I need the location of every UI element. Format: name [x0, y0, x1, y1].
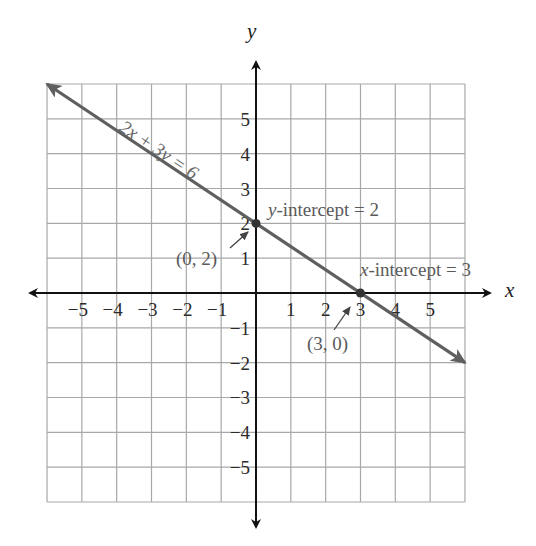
y-tick-label: −1 — [230, 318, 250, 339]
y-intercept-var: y — [266, 199, 277, 220]
y-tick-label: 1 — [241, 248, 251, 269]
x-tick-label: −2 — [172, 299, 192, 320]
arrow-icon — [334, 307, 350, 330]
point-0-2-label: (0, 2) — [176, 248, 217, 270]
x-intercept-text: -intercept = 3 — [368, 259, 471, 280]
y-tick-label: 4 — [241, 144, 251, 165]
y-tick-label: −4 — [230, 422, 251, 443]
y-tick-label: 3 — [241, 179, 251, 200]
x-tick-label: 3 — [356, 299, 366, 320]
x-intercept-point — [356, 289, 365, 298]
x-axis-label: x — [504, 278, 515, 302]
y-tick-label: −3 — [230, 387, 250, 408]
y-intercept-point — [252, 219, 261, 228]
x-intercept-label: x-intercept = 3 — [359, 259, 471, 280]
x-tick-label: 1 — [286, 299, 296, 320]
point-3-0-label: (3, 0) — [307, 333, 348, 355]
x-tick-label: 2 — [321, 299, 331, 320]
y-tick-label: −5 — [230, 457, 250, 478]
y-intercept-text: -intercept = 2 — [276, 199, 379, 220]
line-equation-label: 2x + 3y = 6 — [116, 116, 203, 184]
x-tick-label: −5 — [68, 299, 88, 320]
y-intercept-label: y-intercept = 2 — [266, 199, 379, 220]
x-tick-label: −4 — [103, 299, 124, 320]
x-tick-labels: −5−4−3−2−112345 — [68, 299, 435, 320]
y-axis-label: y — [245, 19, 257, 43]
x-tick-label: 5 — [425, 299, 435, 320]
arrow-icon — [230, 232, 248, 248]
y-tick-label: 5 — [241, 109, 251, 130]
y-tick-label: −2 — [230, 353, 250, 374]
x-tick-label: −1 — [207, 299, 227, 320]
coordinate-plane: y x −5−4−3−2−112345 54321−1−2−3−4−5 2x +… — [0, 0, 536, 546]
x-tick-label: −3 — [137, 299, 157, 320]
